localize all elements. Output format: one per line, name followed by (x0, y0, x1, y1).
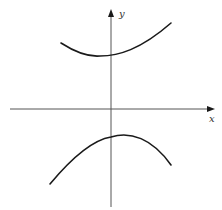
y-axis-label: y (118, 8, 125, 19)
x-axis-label: x (209, 113, 215, 124)
x-axis-arrow-icon (207, 106, 215, 112)
upper-curve (61, 23, 171, 56)
y-axis-arrow-icon (108, 9, 114, 17)
graph-figure: x y (0, 0, 222, 210)
